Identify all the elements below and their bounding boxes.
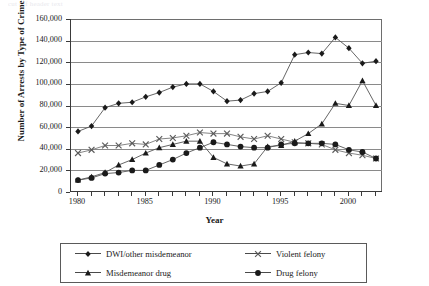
- x-tick-mark: [307, 192, 308, 196]
- circle-marker: [143, 167, 149, 173]
- x-tick-mark: [212, 192, 213, 196]
- x-axis-title: Year: [0, 215, 429, 225]
- circle-marker: [278, 142, 284, 148]
- circle-marker: [332, 142, 338, 148]
- circle-marker: [319, 140, 325, 146]
- series-dwi-other-misdemeanor: [75, 34, 378, 134]
- triangle-marker: [85, 269, 91, 275]
- y-tick-label: 0: [4, 188, 62, 196]
- diamond-marker: [197, 81, 202, 87]
- diamond-marker: [292, 52, 297, 58]
- x-cross-marker: [89, 147, 95, 153]
- diamond-marker: [116, 100, 121, 106]
- legend-item[interactable]: DWI/other misdemeanor: [61, 248, 231, 259]
- series-misdemeanor-drug: [75, 77, 379, 182]
- y-tick-label: 100,000: [4, 79, 62, 87]
- x-tick-mark: [267, 192, 268, 196]
- legend-item[interactable]: Drug felony: [231, 267, 366, 278]
- diamond-marker: [224, 98, 229, 104]
- triangle-marker: [359, 77, 365, 83]
- x-tick-mark: [158, 192, 159, 196]
- x-tick-mark: [131, 192, 132, 196]
- triangle-marker: [332, 100, 338, 106]
- circle-marker: [305, 140, 311, 146]
- x-cross-marker: [75, 150, 81, 156]
- diamond-marker: [85, 250, 90, 256]
- legend-label: Violent felony: [276, 249, 325, 259]
- y-tick-label: 60,000: [4, 123, 62, 131]
- circle-marker: [129, 167, 135, 173]
- diamond-marker: [75, 128, 80, 134]
- y-tick-mark: [66, 192, 70, 193]
- circle-marker: [211, 139, 217, 145]
- circle-marker: [183, 150, 189, 156]
- legend-label: DWI/other misdemeanor: [106, 249, 192, 259]
- circle-marker: [373, 156, 379, 162]
- cut-off-header-text: cut off header text: [8, 0, 420, 9]
- diamond-marker: [170, 84, 175, 90]
- triangle-marker: [116, 162, 122, 168]
- series-line: [78, 37, 376, 131]
- x-tick-mark: [185, 192, 186, 196]
- diamond-marker: [157, 89, 162, 95]
- series-layer: [71, 19, 383, 192]
- x-tick-mark: [91, 192, 92, 196]
- y-tick-label: 40,000: [4, 144, 62, 152]
- circle-marker: [102, 171, 108, 177]
- x-tick-label: 1995: [260, 197, 300, 206]
- y-tick-label: 160,000: [4, 15, 62, 23]
- x-tick-mark: [375, 192, 376, 196]
- diamond-marker: [265, 88, 270, 94]
- legend-item[interactable]: Violent felony: [231, 248, 366, 259]
- x-cross-marker: [332, 147, 338, 153]
- diamond-marker: [211, 88, 216, 94]
- legend-item[interactable]: Misdemeanor drug: [61, 267, 231, 278]
- x-tick-mark: [145, 192, 146, 196]
- x-tick-mark: [118, 192, 119, 196]
- diamond-marker: [306, 49, 311, 55]
- x-cross-marker: [255, 251, 261, 257]
- circle-marker: [251, 145, 257, 151]
- x-tick-mark: [104, 192, 105, 196]
- circle-marker: [170, 157, 176, 163]
- legend-label: Drug felony: [276, 268, 318, 278]
- x-tick-mark: [280, 192, 281, 196]
- diamond-marker: [184, 81, 189, 87]
- x-tick-mark: [172, 192, 173, 196]
- diamond-marker: [75, 248, 101, 259]
- y-tick-label: 80,000: [4, 101, 62, 109]
- y-tick-label: 140,000: [4, 36, 62, 44]
- x-tick-mark: [294, 192, 295, 196]
- circle-marker: [265, 145, 271, 151]
- circle-marker: [75, 177, 81, 183]
- triangle-marker: [373, 102, 379, 108]
- triangle-marker: [129, 156, 135, 162]
- circle-marker: [346, 147, 352, 153]
- x-tick-mark: [253, 192, 254, 196]
- diamond-marker: [278, 80, 283, 86]
- x-tick-mark: [334, 192, 335, 196]
- circle-marker: [238, 144, 244, 150]
- arrests-by-crime-type-chart: cut off header text Number of Arrests by…: [0, 0, 429, 286]
- y-tick-label: 120,000: [4, 58, 62, 66]
- x-tick-mark: [240, 192, 241, 196]
- circle-marker: [360, 149, 366, 155]
- x-tick-label: 1985: [125, 197, 165, 206]
- triangle-marker: [305, 130, 311, 136]
- x-tick-label: 1990: [192, 197, 232, 206]
- x-tick-mark: [321, 192, 322, 196]
- diamond-marker: [129, 99, 134, 105]
- triangle-marker: [224, 161, 230, 167]
- x-tick-label: 1980: [57, 197, 97, 206]
- triangle-marker: [75, 267, 101, 278]
- chart-legend: DWI/other misdemeanorViolent felonyMisde…: [60, 243, 367, 283]
- circle-marker: [116, 170, 122, 176]
- x-cross-marker: [278, 136, 284, 142]
- circle-marker: [197, 145, 203, 151]
- x-cross-marker: [265, 133, 271, 139]
- circle-marker: [255, 270, 261, 276]
- circle-marker: [292, 140, 298, 146]
- circle-marker: [245, 267, 271, 278]
- y-tick-label: 20,000: [4, 166, 62, 174]
- diamond-marker: [251, 91, 256, 97]
